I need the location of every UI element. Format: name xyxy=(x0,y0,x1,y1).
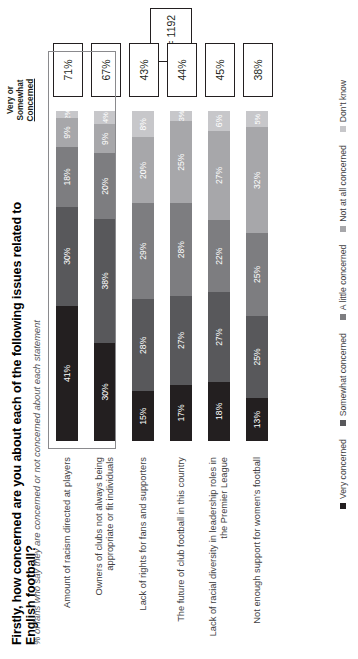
summary-header-line-1: Very or xyxy=(6,62,16,138)
bar-segment: 28% xyxy=(132,299,154,391)
legend-label: Don't know xyxy=(338,80,348,122)
bar-segment: 15% xyxy=(132,392,154,442)
stacked-bar: 41%30%18%9%2% xyxy=(56,111,78,441)
bar-segment: 5% xyxy=(246,111,268,128)
bar-segment: 4% xyxy=(94,111,116,124)
chart-poster: Firstly, how concerned are you about eac… xyxy=(0,0,358,659)
chart-row: Lack of racial diversity in leadership r… xyxy=(204,15,234,645)
category-label: Lack of rights for fans and supporters xyxy=(128,449,158,645)
bar-segment: 32% xyxy=(246,128,268,234)
bar-segment: 3% xyxy=(170,111,192,121)
summary-value-box: 71% xyxy=(53,43,83,97)
bar-segment: 27% xyxy=(208,131,230,220)
summary-value-box: 44% xyxy=(167,43,197,97)
stacked-bar: 30%38%20%9%4% xyxy=(94,111,116,441)
category-label: Owners of clubs not always being appropr… xyxy=(90,449,120,645)
page-subtitle: % of fans who say they are concerned or … xyxy=(31,175,42,645)
chart-row: The future of club football in this coun… xyxy=(166,15,196,645)
bar-segment: 27% xyxy=(170,296,192,385)
stacked-bar: 15%28%29%20%8% xyxy=(132,111,154,441)
bar-segment: 41% xyxy=(56,306,78,441)
bar-segment: 20% xyxy=(132,137,154,203)
legend-swatch-icon xyxy=(340,226,346,232)
stacked-bar: 17%27%28%25%3% xyxy=(170,111,192,441)
bar-segment: 38% xyxy=(94,219,116,343)
bar-segment: 29% xyxy=(132,203,154,299)
bar-segment: 30% xyxy=(56,207,78,306)
summary-value-box: 45% xyxy=(205,43,235,97)
category-label: Amount of racism directed at players xyxy=(52,449,82,645)
legend-swatch-icon xyxy=(340,503,346,509)
category-label: Not enough support for women's football xyxy=(242,449,272,645)
legend-item: A little concerned xyxy=(338,245,348,320)
summary-value-box: 38% xyxy=(243,43,273,97)
bar-segment: 25% xyxy=(170,121,192,204)
stacked-bar: 18%27%22%27%6% xyxy=(208,111,230,441)
bar-segment: 30% xyxy=(94,343,116,441)
bar-segment: 22% xyxy=(208,220,230,293)
legend-item: Not at all concerned xyxy=(338,145,348,231)
bar-segment: 6% xyxy=(208,111,230,131)
legend-item: Don't know xyxy=(338,80,348,132)
bar-segment: 27% xyxy=(208,293,230,382)
stacked-bar: 13%25%25%32%5% xyxy=(246,111,268,441)
chart-row: Lack of rights for fans and supporters15… xyxy=(128,15,158,645)
bar-segment: 18% xyxy=(56,147,78,206)
bar-segment: 18% xyxy=(208,382,230,441)
bar-segment: 25% xyxy=(246,316,268,399)
legend-swatch-icon xyxy=(340,126,346,132)
chart-row: Owners of clubs not always being appropr… xyxy=(90,15,120,645)
legend-swatch-icon xyxy=(340,420,346,426)
category-label: Lack of racial diversity in leadership r… xyxy=(204,449,234,645)
bar-segment: 28% xyxy=(170,203,192,295)
summary-value-box: 43% xyxy=(129,43,159,97)
category-label: The future of club football in this coun… xyxy=(166,449,196,645)
legend-item: Somewhat concerned xyxy=(338,333,348,426)
summary-column-header: Very or Somewhat Concerned xyxy=(6,62,36,138)
bar-segment: 20% xyxy=(94,153,116,218)
bar-segment: 9% xyxy=(56,118,78,148)
chart-plot-area: Amount of racism directed at players41%3… xyxy=(52,15,304,645)
summary-value-box: 67% xyxy=(91,43,121,97)
bar-segment: 8% xyxy=(132,111,154,137)
bar-segment: 13% xyxy=(246,398,268,441)
bar-segment: 17% xyxy=(170,385,192,441)
chart-legend: Very concernedSomewhat concernedA little… xyxy=(338,80,348,509)
bar-segment: 25% xyxy=(246,233,268,316)
legend-label: Somewhat concerned xyxy=(338,333,348,416)
chart-row: Amount of racism directed at players41%3… xyxy=(52,15,82,645)
legend-label: A little concerned xyxy=(338,245,348,310)
legend-swatch-icon xyxy=(340,314,346,320)
bar-segment: 2% xyxy=(56,111,78,118)
legend-label: Very concerned xyxy=(338,439,348,499)
legend-item: Very concerned xyxy=(338,439,348,509)
summary-header-line-3: Concerned xyxy=(26,62,36,138)
chart-row: Not enough support for women's football1… xyxy=(242,15,272,645)
summary-header-line-2: Somewhat xyxy=(16,62,26,138)
legend-label: Not at all concerned xyxy=(338,145,348,221)
bar-segment: 9% xyxy=(94,124,116,153)
